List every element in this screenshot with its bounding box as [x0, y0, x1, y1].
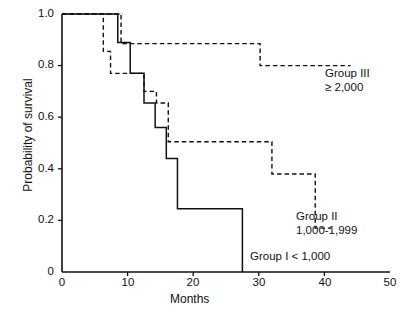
- annotation-group-i: Group I < 1,000: [250, 249, 330, 263]
- annotation-group-ii-line2: 1,000-1,999: [296, 223, 357, 237]
- y-tick-label: 0.2: [8, 213, 54, 225]
- x-axis-title: Months: [170, 292, 209, 306]
- x-tick-label: 0: [47, 276, 77, 288]
- annotation-group-ii: Group II 1,000-1,999: [296, 209, 357, 237]
- annotation-group-i-line1: Group I < 1,000: [250, 250, 330, 262]
- annotation-group-iii-line2: ≥ 2,000: [325, 80, 370, 94]
- x-tick-label: 10: [113, 276, 143, 288]
- series-line-1: [62, 14, 242, 272]
- annotation-group-iii-line1: Group III: [325, 67, 370, 79]
- annotation-group-iii: Group III ≥ 2,000: [325, 66, 370, 94]
- plot-canvas: [0, 0, 410, 316]
- annotation-group-ii-line1: Group II: [296, 210, 338, 222]
- survival-curve-figure: 1.0 0.8 0.6 0.4 0.2 0 0 10 20 30 40 50 P…: [0, 0, 410, 316]
- x-tick-label: 40: [310, 276, 340, 288]
- series-line-3: [62, 14, 351, 66]
- series-line-2: [62, 14, 331, 228]
- x-tick-label: 20: [178, 276, 208, 288]
- y-axis-title: Probability of survival: [21, 60, 35, 210]
- y-tick-label: 1.0: [8, 7, 54, 19]
- x-tick-label: 50: [375, 276, 405, 288]
- x-tick-label: 30: [244, 276, 274, 288]
